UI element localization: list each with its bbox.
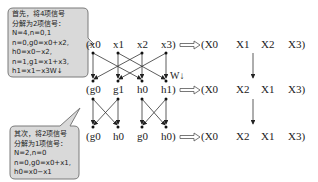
- callout-2-line: 其次，将2项信号: [14, 130, 67, 140]
- butterfly-stage-2: [93, 99, 166, 125]
- butterfly-stage-1: [93, 53, 166, 79]
- callout-1-line: 分解为2项信号：: [12, 20, 65, 30]
- output-label: (X0: [201, 39, 218, 50]
- output-label: X3): [288, 84, 305, 95]
- output-label: (X0: [201, 84, 218, 95]
- callout-1-line: h1=x1−x3W↓: [12, 67, 63, 77]
- output-label: X2: [261, 39, 274, 50]
- input-label: x2: [137, 39, 148, 50]
- stage-label: h1): [161, 84, 176, 95]
- callout-1-line: N=4,n=0,1: [12, 29, 51, 39]
- callout-2-line: 分解为1项信号：: [14, 140, 67, 150]
- output-label: X1: [261, 84, 274, 95]
- output-label: X1: [261, 131, 274, 142]
- stage-2-nodes: [92, 98, 168, 129]
- stage-1-nodes: [92, 52, 168, 83]
- callout-1-line: 首先，将4项信号: [12, 10, 65, 20]
- input-label: x3): [161, 39, 176, 50]
- callout-1-line: n=0,g0=x0+x2,: [12, 39, 69, 49]
- input-label: (x0: [86, 39, 101, 50]
- callout-2-line: h0=x0−x1: [14, 168, 52, 178]
- double-arrows: [180, 41, 200, 141]
- input-label: x1: [113, 39, 124, 50]
- output-label: X3): [288, 131, 305, 142]
- output-label: X3): [288, 39, 305, 50]
- output-label: X2: [236, 131, 249, 142]
- callout-2-line: N=2,n=0: [14, 149, 47, 159]
- output-label: (X0: [201, 131, 218, 142]
- callout-1-line: h0=x0−x2,: [12, 48, 52, 58]
- callout-1-line: n=1,g1=x1+x3,: [12, 58, 69, 68]
- output-label: X1: [236, 39, 249, 50]
- stage-label: h0): [161, 131, 176, 142]
- stage-label: h0: [113, 131, 124, 142]
- stage-label: (g0: [86, 131, 101, 142]
- output-label: X2: [236, 84, 249, 95]
- twiddle-label: W↓: [170, 70, 184, 81]
- stage-label: g1: [113, 84, 124, 95]
- callout-2-line: n=0,g0=x0+x1,: [14, 159, 71, 169]
- stage-label: (g0: [86, 84, 101, 95]
- stage-label: g0: [137, 131, 148, 142]
- stage-label: h0: [137, 84, 148, 95]
